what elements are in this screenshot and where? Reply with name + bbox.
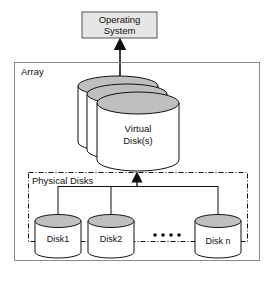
virtual-disk-stack: Virtual Disk(s)	[78, 76, 179, 171]
virtual-disk-front: Virtual Disk(s)	[97, 92, 179, 171]
disk-2: Disk2	[88, 215, 134, 259]
disk-n: Disk n	[195, 215, 241, 259]
disk-2-label: Disk2	[100, 234, 123, 244]
storage-diagram: Operating System Array Virtual Disk(s)	[0, 0, 268, 284]
array-label: Array	[21, 66, 44, 77]
os-label-line2: System	[104, 25, 136, 36]
disk-bus	[58, 186, 218, 215]
physical-disks-label: Physical Disks	[32, 175, 93, 186]
virtual-disk-label-line1: Virtual	[125, 123, 152, 134]
disk-n-label: Disk n	[205, 236, 230, 246]
ellipsis-dots	[153, 233, 181, 237]
operating-system-box: Operating System	[82, 12, 157, 38]
os-label-line1: Operating	[99, 14, 141, 25]
virtual-disk-label-line2: Disk(s)	[123, 135, 153, 146]
disk-1: Disk1	[35, 215, 81, 259]
disk-1-label: Disk1	[47, 234, 70, 244]
